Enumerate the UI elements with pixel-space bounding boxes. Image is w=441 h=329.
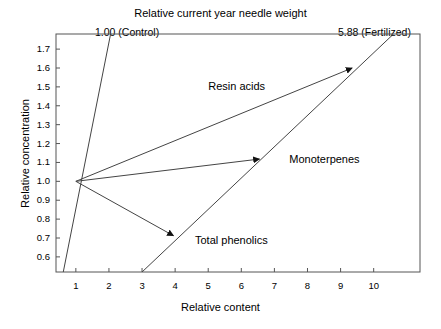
- x-tick-label: 6: [231, 281, 251, 291]
- chart-figure: Relative current year needle weight 1.00…: [0, 0, 441, 329]
- y-tick-label: 0.8: [26, 214, 50, 224]
- y-tick-label: 0.6: [26, 252, 50, 262]
- y-tick-label: 1.6: [26, 63, 50, 73]
- x-tick-label: 10: [364, 281, 384, 291]
- x-tick-label: 8: [297, 281, 317, 291]
- x-axis-ticks: [76, 268, 374, 272]
- y-tick-label: 1.3: [26, 120, 50, 130]
- y-tick-label: 1.7: [26, 44, 50, 54]
- series-label-monoterpenes: Monoterpenes: [289, 154, 359, 165]
- x-tick-label: 9: [331, 281, 351, 291]
- series-label-total-phenolics: Total phenolics: [195, 235, 268, 246]
- x-tick-label: 4: [165, 281, 185, 291]
- x-tick-label: 5: [198, 281, 218, 291]
- x-tick-label: 1: [66, 281, 86, 291]
- y-tick-label: 1.1: [26, 157, 50, 167]
- x-axis-title: Relative content: [0, 302, 441, 313]
- y-tick-label: 1.4: [26, 101, 50, 111]
- y-tick-label: 0.9: [26, 195, 50, 205]
- x-tick-label: 2: [99, 281, 119, 291]
- series-arrows: [76, 68, 352, 236]
- y-tick-label: 0.7: [26, 233, 50, 243]
- y-tick-label: 1.2: [26, 139, 50, 149]
- y-tick-label: 1.0: [26, 176, 50, 186]
- x-tick-label: 7: [264, 281, 284, 291]
- arrow-total-phenolics: [76, 181, 174, 235]
- series-label-resin-acids: Resin acids: [208, 81, 265, 92]
- y-tick-label: 1.5: [26, 82, 50, 92]
- reference-line-control: [63, 34, 110, 272]
- x-tick-label: 3: [132, 281, 152, 291]
- y-axis-ticks: [56, 49, 60, 257]
